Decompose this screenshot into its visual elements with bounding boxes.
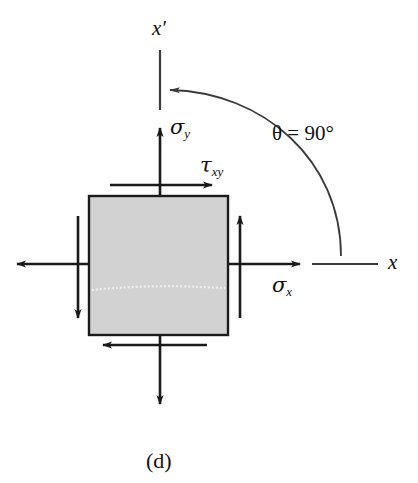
theta-angle-label: θ = 90° — [272, 123, 334, 144]
tau-subscript: xy — [212, 164, 224, 179]
sigma-y-symbol: σ — [170, 115, 184, 139]
stress-element-diagram — [0, 0, 418, 483]
sigma-x-symbol: σ — [272, 273, 286, 297]
x-axis-label: x — [388, 252, 397, 273]
sigma-x-label: σx — [272, 275, 292, 298]
tau-xy-label: τxy — [200, 155, 223, 178]
tau-symbol: τ — [200, 153, 212, 177]
sigma-x-subscript: x — [286, 284, 292, 299]
sigma-y-label: σy — [170, 117, 190, 140]
figure-caption: (d) — [146, 450, 172, 472]
x-prime-axis-label: x′ — [152, 18, 166, 39]
sigma-y-subscript: y — [184, 126, 190, 141]
stress-element-square — [89, 196, 228, 335]
figure-canvas: x′ σy τxy θ = 90° σx x (d) — [0, 0, 418, 483]
